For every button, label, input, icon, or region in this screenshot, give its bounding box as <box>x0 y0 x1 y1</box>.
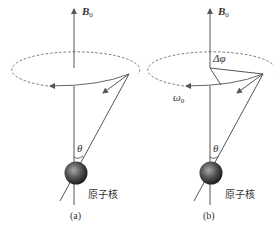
theta-arc <box>74 156 83 158</box>
field-label: B0 <box>217 5 229 19</box>
precession-direction-arc <box>50 74 129 86</box>
precession-orbit-dashed <box>12 52 140 86</box>
nucleus-sphere <box>200 162 223 185</box>
panel-a: B0 θ 原子核 (a) <box>12 5 140 222</box>
panel-caption-a: (a) <box>70 210 81 222</box>
field-label: B0 <box>81 5 93 19</box>
nucleus-sphere <box>65 162 88 185</box>
torque-vector <box>237 74 263 93</box>
phase-line-reference <box>210 68 221 85</box>
torque-vector <box>103 74 129 93</box>
nucleus-label: 原子核 <box>88 188 118 200</box>
phase-label: Δφ <box>212 52 226 64</box>
frequency-label: ω0 <box>173 91 185 105</box>
precession-diagram: B0 θ 原子核 (a) B0 Δφ ω0 θ 原子核 (b) <box>0 0 274 228</box>
theta-label: θ <box>77 142 83 154</box>
panel-caption-b: (b) <box>203 210 215 222</box>
theta-label: θ <box>213 142 219 154</box>
precession-direction-arc <box>186 74 263 86</box>
nucleus-label: 原子核 <box>225 188 255 200</box>
panel-b: B0 Δφ ω0 θ 原子核 (b) <box>148 5 274 222</box>
phase-line-current <box>210 68 263 74</box>
